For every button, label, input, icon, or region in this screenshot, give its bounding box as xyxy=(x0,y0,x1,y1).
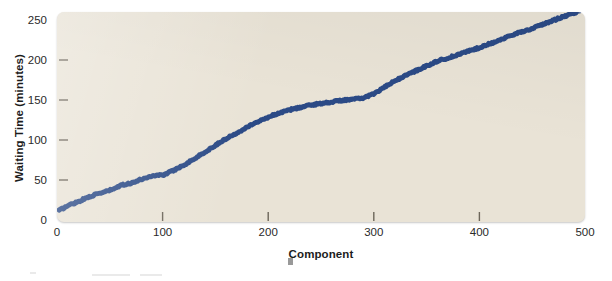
y-tick-label: 100 xyxy=(28,134,47,146)
plot-svg xyxy=(57,12,585,222)
scan-artifact xyxy=(92,274,130,276)
x-tick-label: 0 xyxy=(54,226,60,238)
x-tick-label: 300 xyxy=(364,226,383,238)
y-tick-label: 0 xyxy=(41,214,47,226)
x-tick-label: 500 xyxy=(575,226,594,238)
x-tick-label: 200 xyxy=(259,226,278,238)
y-tick-label: 200 xyxy=(28,54,47,66)
y-tick-label: 150 xyxy=(28,94,47,106)
x-axis-title: Component xyxy=(57,248,585,260)
x-axis-ticks xyxy=(163,212,480,221)
chart-figure: Waiting Time (minutes) 250 200 150 100 5… xyxy=(0,0,612,281)
scan-artifact xyxy=(140,274,162,276)
data-series-line xyxy=(59,12,583,210)
x-axis-tick-labels: 0 100 200 300 400 500 xyxy=(0,226,612,246)
x-tick-label: 100 xyxy=(153,226,172,238)
y-tick-label: 50 xyxy=(34,174,47,186)
y-axis-ticks xyxy=(59,60,68,180)
plot-area xyxy=(57,12,585,222)
x-tick-label: 400 xyxy=(470,226,489,238)
y-tick-label: 250 xyxy=(28,14,47,26)
